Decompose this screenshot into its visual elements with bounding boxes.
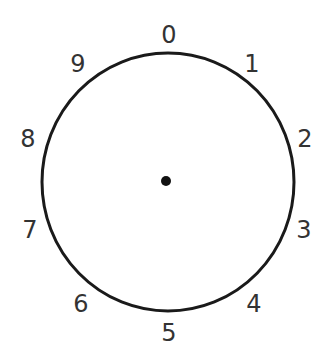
dial-label-7: 7 bbox=[22, 216, 37, 244]
dial-label-6: 6 bbox=[73, 290, 88, 318]
dial-label-3: 3 bbox=[296, 216, 311, 244]
dial-label-1: 1 bbox=[244, 50, 259, 78]
dial-label-9: 9 bbox=[70, 50, 85, 78]
dial-diagram: 0 1 2 3 4 5 6 7 8 9 bbox=[0, 0, 324, 362]
dial-label-5: 5 bbox=[161, 319, 176, 347]
dial-label-0: 0 bbox=[161, 21, 176, 49]
dial-label-8: 8 bbox=[20, 125, 35, 153]
center-dot bbox=[161, 176, 171, 186]
dial-label-4: 4 bbox=[246, 290, 261, 318]
dial-label-2: 2 bbox=[297, 125, 312, 153]
